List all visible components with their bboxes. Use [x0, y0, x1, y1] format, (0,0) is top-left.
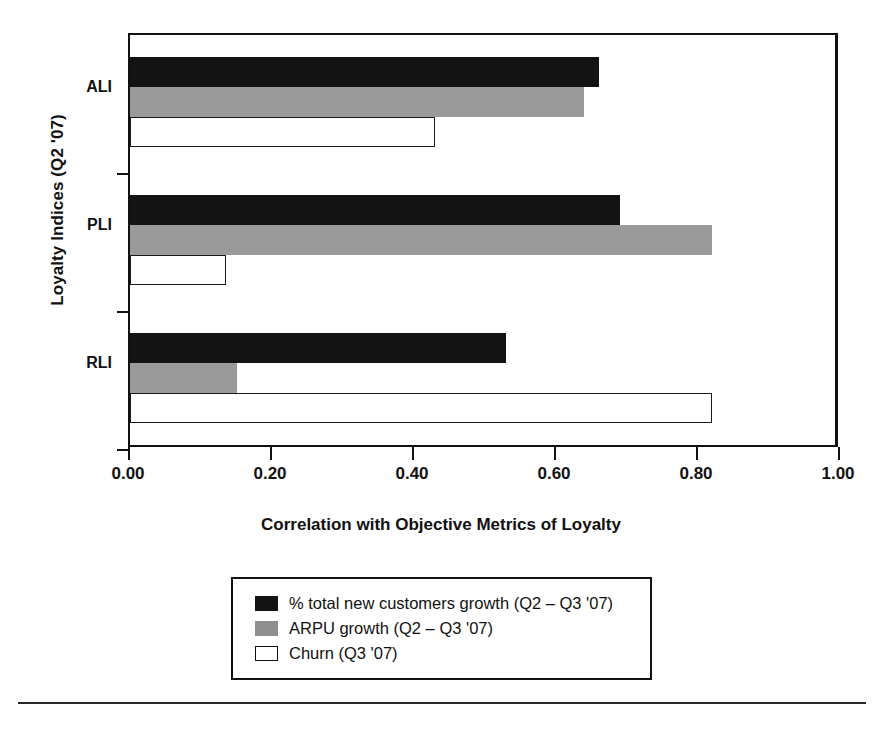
legend-label: % total new customers growth (Q2 – Q3 '0… — [289, 594, 613, 613]
legend-item: % total new customers growth (Q2 – Q3 '0… — [255, 591, 650, 616]
legend: % total new customers growth (Q2 – Q3 '0… — [231, 577, 652, 680]
legend-label: ARPU growth (Q2 – Q3 '07) — [289, 619, 493, 638]
bar-rli-black — [130, 333, 506, 363]
x-tick-label: 0.00 — [111, 464, 144, 484]
y-tick — [117, 173, 130, 175]
bar-pli-black — [130, 195, 620, 225]
x-tick-label: 0.20 — [253, 464, 286, 484]
legend-item: Churn (Q3 '07) — [255, 641, 650, 666]
x-tick-label: 0.60 — [537, 464, 570, 484]
bar-ali-black — [130, 57, 599, 87]
plot-area: ALIPLIRLI — [128, 33, 838, 447]
legend-swatch-gray — [255, 621, 278, 636]
y-axis-label-ali: ALI — [86, 78, 112, 96]
y-tick — [117, 311, 130, 313]
y-axis-label-pli: PLI — [87, 216, 112, 234]
bar-ali-gray — [130, 87, 584, 117]
bar-pli-white — [130, 255, 226, 285]
bar-rli-white — [130, 393, 712, 423]
figure-bar-chart: Loyalty Indices (Q2 '07) ALIPLIRLI 0.000… — [0, 0, 882, 735]
bar-rli-gray — [130, 363, 237, 393]
legend-item: ARPU growth (Q2 – Q3 '07) — [255, 616, 650, 641]
y-axis-title: Loyalty Indices (Q2 '07) — [48, 60, 68, 360]
x-axis-title: Correlation with Objective Metrics of Lo… — [0, 515, 882, 535]
x-tick — [838, 447, 840, 460]
x-tick-label: 1.00 — [821, 464, 854, 484]
x-tick — [412, 447, 414, 460]
bar-pli-gray — [130, 225, 712, 255]
x-tick — [696, 447, 698, 460]
legend-swatch-black — [255, 596, 278, 611]
x-axis: 0.000.200.400.600.801.00 — [128, 447, 838, 507]
legend-swatch-white — [255, 646, 278, 661]
x-tick-label: 0.80 — [679, 464, 712, 484]
figure-caption — [18, 712, 866, 732]
x-tick — [128, 447, 130, 460]
x-tick — [554, 447, 556, 460]
x-tick-label: 0.40 — [395, 464, 428, 484]
legend-label: Churn (Q3 '07) — [289, 644, 398, 663]
x-tick — [270, 447, 272, 460]
y-axis-label-rli: RLI — [86, 354, 112, 372]
bar-series-container — [130, 35, 835, 445]
footer-divider — [18, 702, 866, 704]
bar-ali-white — [130, 117, 435, 147]
